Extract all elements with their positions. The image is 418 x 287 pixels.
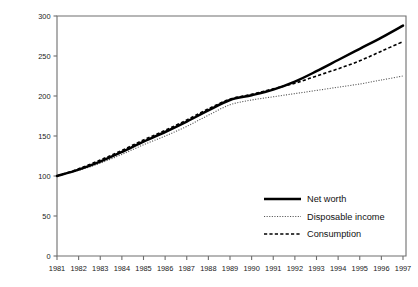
x-tick-label: 1983 [92, 264, 108, 273]
series-line-disposable-income [57, 76, 403, 176]
line-chart: 050100150200250300 198119821983198419851… [0, 0, 418, 287]
x-tick-label: 1989 [222, 264, 238, 273]
x-tick-label: 1994 [330, 264, 346, 273]
x-tick-label: 1987 [179, 264, 195, 273]
x-tick-label: 1981 [49, 264, 65, 273]
y-tick-label: 0 [46, 252, 50, 261]
y-tick-label: 100 [38, 172, 50, 181]
y-axis-ticks: 050100150200250300 [38, 12, 57, 261]
data-series-layer [57, 26, 403, 176]
x-tick-label: 1995 [352, 264, 368, 273]
x-tick-label: 1992 [287, 264, 303, 273]
y-tick-label: 50 [42, 212, 50, 221]
y-tick-label: 300 [38, 12, 50, 21]
x-tick-label: 1982 [70, 264, 86, 273]
chart-legend: Net worthDisposable incomeConsumption [264, 194, 385, 239]
x-tick-label: 1993 [308, 264, 324, 273]
x-tick-label: 1997 [395, 264, 411, 273]
x-tick-label: 1996 [373, 264, 389, 273]
y-tick-label: 150 [38, 132, 50, 141]
x-tick-label: 1991 [265, 264, 281, 273]
x-tick-label: 1988 [200, 264, 216, 273]
series-line-consumption [57, 42, 403, 176]
series-line-net-worth [57, 26, 403, 176]
legend-label: Net worth [307, 194, 346, 204]
legend-label: Disposable income [307, 212, 385, 222]
x-axis-ticks: 1981198219831984198519861987198819891990… [49, 256, 411, 273]
legend-label: Consumption [307, 229, 361, 239]
x-tick-label: 1990 [243, 264, 259, 273]
chart-canvas: 050100150200250300 198119821983198419851… [0, 0, 418, 287]
y-tick-label: 200 [38, 92, 50, 101]
x-tick-label: 1986 [157, 264, 173, 273]
x-tick-label: 1984 [114, 264, 130, 273]
y-tick-label: 250 [38, 52, 50, 61]
x-tick-label: 1985 [135, 264, 151, 273]
